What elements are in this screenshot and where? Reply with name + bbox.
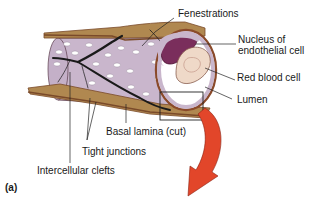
fenestration [133,50,140,54]
fenestration [89,81,96,85]
fenestration [127,69,134,73]
fenestration [107,74,114,78]
label-red-blood-cell: Red blood cell [237,72,300,83]
fenestration [56,50,63,54]
diagram-stage: Fenestrations Nucleus of endothelial cel… [0,0,310,204]
fenestration [143,92,150,96]
label-lumen: Lumen [237,94,268,105]
fenestration [148,42,155,46]
fenestration [93,62,100,66]
label-intercellular-clefts: Intercellular clefts [37,165,115,176]
fenestration [118,46,125,50]
label-fenestrations: Fenestrations [178,8,239,19]
fenestration [54,62,61,66]
panel-label: (a) [5,182,17,193]
label-basal-lamina: Basal lamina (cut) [106,126,186,137]
detail-arrow-icon [188,108,221,196]
fenestration [105,53,112,57]
fenestration [72,51,79,55]
fenestration [86,43,93,47]
label-nucleus-line2: endothelial cell [238,45,304,56]
label-nucleus-line1: Nucleus of [238,34,285,45]
fenestration [64,42,71,46]
fenestration [128,85,135,89]
label-tight-junctions: Tight junctions [82,146,146,157]
fenestration [114,63,121,67]
